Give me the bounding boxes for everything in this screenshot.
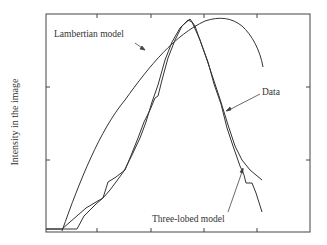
x-ticks: [97, 14, 257, 232]
data-line: [46, 20, 262, 229]
annotation-arrows: [135, 43, 260, 212]
lambertian-model-label: Lambertian model: [54, 29, 124, 39]
three-lobed-model-line: [46, 19, 262, 229]
three-lobed-model-label: Three-lobed model: [152, 214, 225, 224]
y-ticks: [46, 87, 310, 160]
y-axis-label: Intensity in the image: [9, 79, 20, 166]
data-label: Data: [262, 87, 280, 97]
plot-frame: [46, 14, 310, 232]
chart-canvas: [0, 0, 327, 245]
